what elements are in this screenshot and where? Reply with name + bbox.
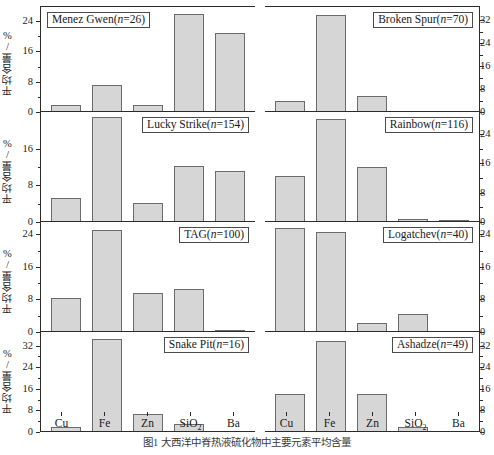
panel-logatchev: Logatchev(n=40) — [265, 222, 480, 332]
y-tick-mark-minor — [480, 55, 483, 56]
panel-label-rainbow: Rainbow(n=116) — [385, 117, 473, 133]
panel-menez-gwen: Menez Gwen(n=26) — [40, 6, 255, 112]
bar-zn — [133, 105, 163, 111]
bar-cu — [275, 228, 305, 331]
figure-caption: 图1 大西洋中脊热液硫化物中主要元素平均含量 — [0, 437, 494, 455]
x-tick-label-sio2: SiO2 — [396, 417, 436, 434]
bar-zn — [133, 203, 163, 221]
y-tick-mark-minor — [480, 101, 483, 102]
y-tick-mark — [480, 299, 484, 300]
panel-broken-spur: Broken Spur(n=70) — [265, 6, 480, 112]
y-tick-mark — [480, 346, 484, 347]
y-tick-label: 8 — [0, 405, 40, 415]
x-tick-mark — [329, 412, 330, 416]
panel-label-text: Rainbow(n=116) — [390, 118, 468, 130]
x-tick-label-zn: Zn — [128, 417, 168, 434]
y-tick-mark-minor — [480, 149, 483, 150]
panel-grid: Menez Gwen(n=26) Broken Spur(n=70) Lucky… — [40, 6, 480, 412]
y-tick-mark-minor — [38, 283, 41, 284]
y-axis-ashadze: 08162432 — [480, 332, 494, 432]
y-tick-mark — [36, 51, 40, 52]
bar-zn — [133, 293, 163, 331]
y-tick-mark-minor — [38, 204, 41, 205]
x-tick-mark — [61, 412, 62, 416]
panel-label-text: Menez Gwen(n=26) — [52, 13, 145, 25]
bar-sio2 — [398, 314, 428, 331]
bar-zn — [357, 167, 387, 222]
y-tick-mark — [480, 234, 484, 235]
y-tick-mark-minor — [38, 97, 41, 98]
y-tick-label: 8 — [0, 180, 40, 190]
y-tick-mark-minor — [38, 167, 41, 168]
panel-label-text: Broken Spur(n=70) — [378, 13, 468, 25]
panel-label-text: Ashadze(n=49) — [397, 338, 468, 350]
x-tick-mark — [415, 412, 416, 416]
bar-zn — [357, 323, 387, 331]
y-axis-menez-gwen: 081624 — [0, 6, 40, 112]
panel-label-text: TAG(n=100) — [184, 228, 244, 240]
bar-cu — [275, 101, 305, 111]
panel-label-ashadze: Ashadze(n=49) — [392, 337, 473, 353]
x-axis-right: CuFeZnSiO2Ba — [265, 417, 480, 434]
bar-sio2 — [174, 289, 204, 331]
y-tick-label: 16 — [0, 144, 40, 154]
y-tick-mark — [480, 66, 484, 67]
x-tick-mark — [286, 412, 287, 416]
bar-ba — [439, 220, 469, 222]
x-ticks-left — [40, 412, 255, 416]
y-tick-label: 8 — [0, 294, 40, 304]
y-axis-rainbow: 081624 — [480, 112, 494, 222]
y-tick-mark-minor — [480, 283, 483, 284]
panel-label-logatchev: Logatchev(n=40) — [383, 227, 473, 243]
y-tick-mark-minor — [480, 316, 483, 317]
bar-zn — [357, 96, 387, 111]
x-tick-mark — [104, 412, 105, 416]
y-tick-mark — [36, 82, 40, 83]
y-axis-logatchev: 081624 — [480, 222, 494, 332]
y-tick-mark — [480, 43, 484, 44]
panel-label-text: Snake Pit(n=16) — [169, 338, 244, 350]
y-tick-mark-minor — [38, 251, 41, 252]
bar-cu — [275, 176, 305, 221]
x-tick-label-fe: Fe — [85, 417, 125, 434]
panel-lucky-strike: Lucky Strike(n=154) — [40, 112, 255, 222]
y-tick-mark-minor — [480, 378, 483, 379]
y-tick-mark-minor — [480, 421, 483, 422]
panel-label-broken-spur: Broken Spur(n=70) — [373, 12, 473, 28]
bar-fe — [316, 119, 346, 221]
figure-root: 平均含量/% 平均含量/% 平均含量/% 平均含量/% Menez Gwen(n… — [0, 0, 494, 455]
y-tick-mark — [480, 20, 484, 21]
panel-label-lucky-strike: Lucky Strike(n=154) — [142, 117, 249, 133]
y-tick-mark-minor — [38, 316, 41, 317]
bar-fe — [316, 232, 346, 331]
y-tick-mark — [480, 367, 484, 368]
x-tick-mark — [190, 412, 191, 416]
y-tick-mark — [36, 346, 40, 347]
x-tick-mark — [372, 412, 373, 416]
y-tick-mark — [480, 410, 484, 411]
y-tick-mark-minor — [480, 251, 483, 252]
y-tick-mark — [36, 389, 40, 390]
y-tick-mark-minor — [480, 32, 483, 33]
y-tick-mark-minor — [38, 378, 41, 379]
y-tick-mark-minor — [38, 36, 41, 37]
x-tick-label-ba: Ba — [439, 417, 479, 434]
bar-sio2 — [174, 166, 204, 221]
panel-label-text: Lucky Strike(n=154) — [147, 118, 244, 130]
x-axis-left: CuFeZnSiO2Ba — [40, 417, 255, 434]
bar-ba — [215, 330, 245, 332]
x-tick-mark — [147, 412, 148, 416]
y-tick-mark-minor — [480, 356, 483, 357]
y-tick-mark — [480, 267, 484, 268]
bar-ba — [215, 171, 245, 221]
panel-tag: TAG(n=100) — [40, 222, 255, 332]
bar-fe — [316, 15, 346, 111]
y-tick-mark — [36, 267, 40, 268]
panel-label-snake-pit: Snake Pit(n=16) — [164, 337, 249, 353]
bar-cu — [51, 298, 81, 331]
x-tick-label-fe: Fe — [310, 417, 350, 434]
y-tick-label: 24 — [0, 229, 40, 239]
y-tick-mark-minor — [38, 67, 41, 68]
y-tick-mark — [480, 134, 484, 135]
bar-fe — [92, 117, 122, 221]
